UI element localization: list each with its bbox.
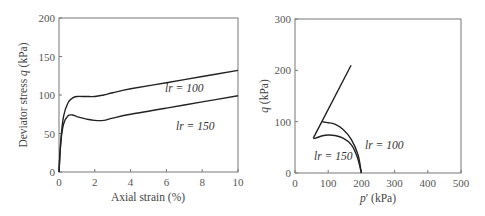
- right-annotation-lr150: lr = 150: [314, 150, 353, 162]
- x-tick-label: 0: [56, 176, 62, 188]
- y-tick-label: 0: [50, 166, 56, 178]
- x-tick-label: 6: [164, 176, 170, 188]
- right-x-axis-label: p′ (kPa): [359, 192, 396, 205]
- y-tick-label: 300: [275, 13, 292, 25]
- right-annotation-lr100: lr = 100: [365, 139, 404, 151]
- figure: 0246810 050100150200 Axial strain (%) De…: [0, 0, 485, 216]
- left-plot-frame: [59, 18, 238, 172]
- stress-strain-chart: 0246810 050100150200 Axial strain (%) De…: [17, 12, 244, 204]
- x-tick-label: 400: [420, 177, 437, 189]
- right-y-ticks: 0100200300: [275, 13, 299, 179]
- left-annotation-lr150: lr = 150: [176, 120, 215, 132]
- stress-path-chart: 0100200300400500 0100200300 p′ (kPa) q (…: [258, 13, 470, 205]
- y-tick-label: 0: [286, 167, 292, 179]
- right-y-axis-label: q (kPa): [258, 79, 271, 113]
- x-tick-label: 0: [292, 177, 298, 189]
- x-tick-label: 2: [92, 176, 98, 188]
- x-tick-label: 200: [353, 177, 370, 189]
- y-tick-label: 50: [44, 128, 56, 140]
- y-tick-label: 100: [39, 89, 56, 101]
- series-line: [59, 96, 238, 172]
- left-annotation-lr100: lr = 100: [165, 82, 204, 94]
- y-tick-label: 150: [39, 51, 56, 63]
- series-line: [322, 122, 361, 173]
- y-tick-label: 100: [275, 116, 292, 128]
- left-x-axis-label: Axial strain (%): [111, 191, 185, 204]
- left-y-axis-label: Deviator stress q (kPa): [17, 42, 30, 147]
- x-tick-label: 4: [128, 176, 134, 188]
- x-tick-label: 300: [386, 177, 403, 189]
- x-tick-label: 10: [233, 176, 245, 188]
- y-tick-label: 200: [275, 64, 292, 76]
- x-tick-label: 100: [320, 177, 337, 189]
- x-tick-label: 500: [453, 177, 470, 189]
- y-tick-label: 200: [39, 12, 56, 24]
- left-y-ticks: 050100150200: [39, 12, 63, 178]
- x-tick-label: 8: [199, 176, 205, 188]
- series-line: [313, 65, 351, 138]
